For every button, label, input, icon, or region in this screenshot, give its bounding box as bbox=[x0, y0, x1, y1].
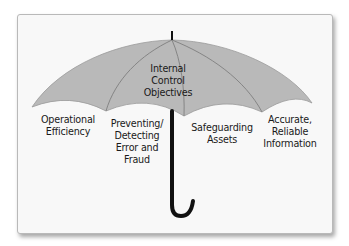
objective-accurate-reliable-information: Accurate, Reliable Information bbox=[258, 114, 322, 150]
objective-safeguarding-assets: Safeguarding Assets bbox=[184, 122, 260, 146]
objective-operational-efficiency: Operational Efficiency bbox=[30, 114, 106, 138]
objective-preventing-detecting-error-fraud: Preventing/ Detecting Error and Fraud bbox=[104, 118, 170, 166]
center-label-internal-control-objectives: Internal Control Objectives bbox=[128, 63, 208, 99]
